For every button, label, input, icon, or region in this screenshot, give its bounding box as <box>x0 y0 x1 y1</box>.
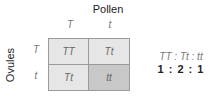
cell-tt: tt <box>89 65 129 91</box>
genotype-ratio-labels: TT : Tt : tt <box>146 51 216 62</box>
punnett-square: TT Tt Tt tt <box>48 38 130 91</box>
ovules-label: Ovules <box>4 39 18 91</box>
pollen-allele-t: t <box>90 19 130 30</box>
genotype-ratio-numbers: 1 : 2 : 1 <box>146 63 216 75</box>
ovule-allele-t: t <box>30 70 42 81</box>
pollen-label: Pollen <box>68 3 148 15</box>
pollen-allele-T: T <box>50 19 90 30</box>
cell-Tt-bottom: Tt <box>49 65 89 91</box>
ovule-allele-T: T <box>30 44 42 55</box>
cell-Tt-top: Tt <box>89 39 129 65</box>
cell-TT: TT <box>49 39 89 65</box>
